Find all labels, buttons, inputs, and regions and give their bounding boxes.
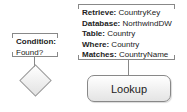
condition-annotation: Condition: Found? bbox=[12, 33, 58, 57]
table-row: Table: Country bbox=[82, 29, 175, 40]
lookup-connector bbox=[128, 60, 129, 75]
lookup-annotation: Retrieve: CountryKey Database: Northwind… bbox=[78, 4, 175, 60]
retrieve-row: Retrieve: CountryKey bbox=[82, 8, 175, 19]
lookup-node[interactable]: Lookup bbox=[87, 75, 171, 102]
decision-diamond[interactable] bbox=[19, 64, 52, 97]
database-row: Database: NorthwindDW bbox=[82, 19, 175, 30]
condition-label: Condition: bbox=[16, 37, 58, 48]
where-row: Where: Country bbox=[82, 40, 175, 51]
